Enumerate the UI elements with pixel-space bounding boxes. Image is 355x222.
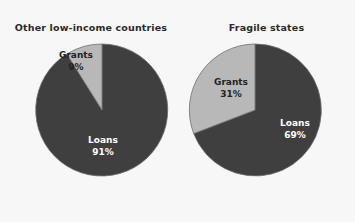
chart-panel-other-low-income-countries: Other low-income countries Grants 9% Loa…: [0, 0, 178, 222]
chart-panel-fragile-states: Fragile states Grants 31% Loans 69%: [178, 0, 355, 222]
pie-chart-left: [0, 0, 178, 222]
figure-container: Other low-income countries Grants 9% Loa…: [0, 0, 355, 222]
pie-chart-right: [178, 0, 355, 222]
